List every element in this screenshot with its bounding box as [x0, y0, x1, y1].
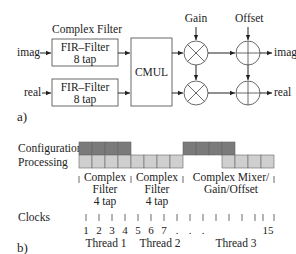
svg-text:.: . [202, 224, 205, 236]
svg-text:6: 6 [148, 224, 154, 236]
configuration-cell [209, 142, 222, 155]
cmul-block: CMUL [131, 38, 172, 106]
configuration-cell [222, 142, 235, 155]
processing-cell [261, 155, 274, 168]
svg-text:Filter: Filter [145, 183, 170, 195]
processing-cell [79, 155, 92, 168]
processing-cell [105, 155, 118, 168]
svg-text:7: 7 [161, 224, 167, 236]
processing-cell [248, 155, 261, 168]
svg-text:5: 5 [135, 224, 141, 236]
svg-text:.: . [189, 224, 192, 236]
cmul-label: CMUL [135, 66, 168, 78]
input-imag-label: imag [17, 46, 40, 59]
fir-bottom-line1: FIR–Filter [61, 81, 110, 93]
phase-2-label: Complex Filter 4 tap [136, 171, 178, 208]
configuration-cell [183, 142, 196, 155]
adder-top-icon [236, 41, 260, 65]
thread-1-label: Thread 1 [85, 237, 126, 249]
configuration-cell [118, 142, 131, 155]
complex-filter-label: Complex Filter [52, 23, 122, 36]
configuration-cell [92, 142, 105, 155]
fir-filter-bottom: FIR–Filter 8 tap [52, 79, 118, 106]
clock-ticks [86, 214, 274, 221]
part-b-label: b) [17, 240, 28, 254]
processing-cell [170, 155, 183, 168]
part-a-label: a) [17, 109, 27, 124]
configuration-cell [79, 142, 92, 155]
configuration-row [79, 142, 235, 155]
svg-text:15: 15 [263, 224, 275, 236]
processing-row-label: Processing [18, 156, 68, 169]
svg-text:3: 3 [109, 224, 115, 236]
output-imag-label: imag [274, 46, 296, 59]
phase-3-label: Complex Mixer/ Gain/Offset [193, 171, 270, 195]
configuration-cell [105, 142, 118, 155]
processing-cell [92, 155, 105, 168]
signal-processing-diagram: Complex Filter imag real FIR–Filter 8 ta… [0, 0, 296, 254]
svg-text:4 tap: 4 tap [94, 195, 117, 208]
thread-3-label: Thread 3 [215, 237, 256, 249]
svg-text:Gain/Offset: Gain/Offset [204, 183, 259, 195]
svg-text:Filter: Filter [93, 183, 118, 195]
svg-text:4: 4 [122, 224, 128, 236]
processing-cell [118, 155, 131, 168]
processing-cell [235, 155, 248, 168]
phase-1-label: Complex Filter 4 tap [84, 171, 126, 208]
configuration-cell [196, 142, 209, 155]
fir-bottom-line2: 8 tap [74, 93, 97, 106]
fir-top-line1: FIR–Filter [61, 41, 110, 53]
configuration-row-label: Configuration [18, 142, 83, 155]
thread-2-label: Thread 2 [139, 237, 180, 249]
processing-cell [222, 155, 235, 168]
processing-cell [131, 155, 144, 168]
adder-bottom-icon [236, 81, 260, 105]
input-real-label: real [24, 86, 41, 98]
output-real-label: real [274, 86, 291, 98]
svg-text:2: 2 [96, 224, 102, 236]
offset-label: Offset [235, 12, 264, 24]
processing-cell [144, 155, 157, 168]
gain-label: Gain [185, 12, 208, 24]
multiplier-top-icon [184, 41, 208, 65]
svg-text:.: . [176, 224, 179, 236]
processing-cell [157, 155, 170, 168]
svg-text:1: 1 [83, 224, 89, 236]
processing-row [79, 155, 274, 168]
clock-numbers: 1 2 3 4 5 6 7 . . . 15 [83, 224, 274, 236]
multiplier-bottom-icon [184, 81, 208, 105]
clocks-label: Clocks [18, 211, 50, 223]
fir-filter-top: FIR–Filter 8 tap [52, 39, 118, 66]
svg-text:4 tap: 4 tap [146, 195, 169, 208]
fir-top-line2: 8 tap [74, 53, 97, 66]
